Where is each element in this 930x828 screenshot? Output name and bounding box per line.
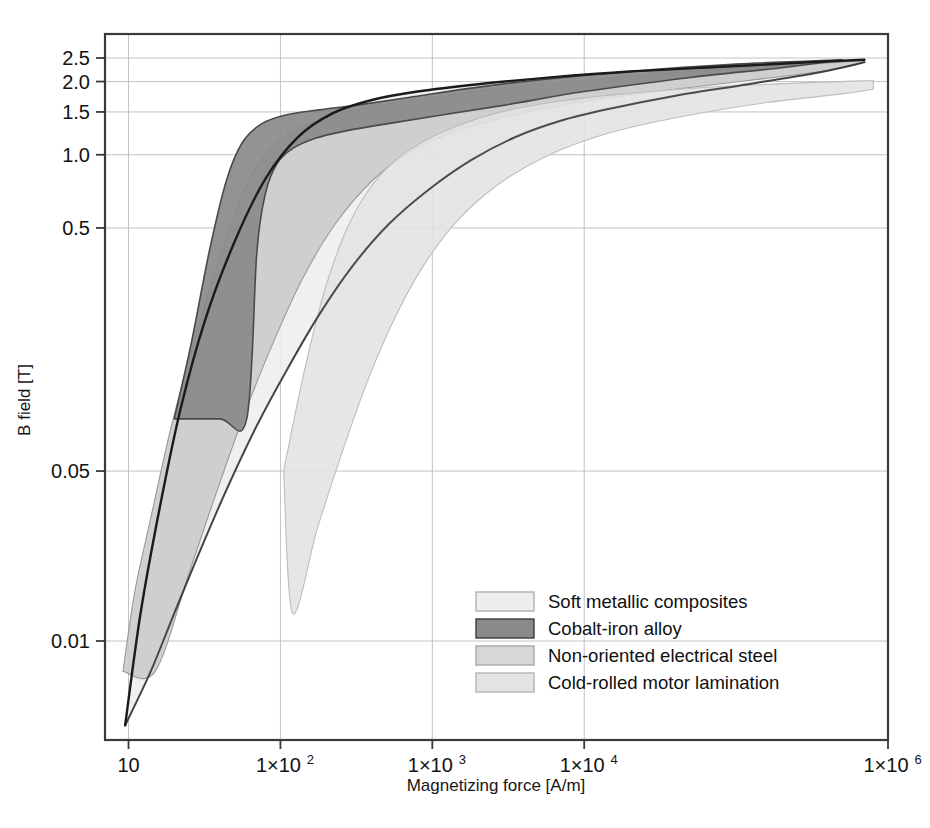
y-tick-label: 0.05 — [51, 460, 90, 482]
svg-text:10: 10 — [117, 754, 139, 776]
legend-label: Cold-rolled motor lamination — [548, 672, 779, 693]
legend-label: Cobalt-iron alloy — [548, 618, 682, 639]
legend-swatch — [476, 673, 534, 692]
svg-text:6: 6 — [914, 752, 921, 767]
svg-text:1×10: 1×10 — [863, 754, 908, 776]
y-tick-label: 0.01 — [51, 630, 90, 652]
svg-text:1×10: 1×10 — [408, 754, 453, 776]
chart-canvas: 2.52.01.51.00.50.050.01 101×1021×1031×10… — [0, 0, 930, 828]
svg-text:3: 3 — [459, 752, 466, 767]
y-axis-title: B field [T] — [15, 364, 34, 436]
magnetization-curve-figure: 2.52.01.51.00.50.050.01 101×1021×1031×10… — [0, 0, 930, 828]
svg-text:4: 4 — [611, 752, 618, 767]
legend-label: Non-oriented electrical steel — [548, 645, 777, 666]
legend-swatch — [476, 646, 534, 665]
legend-label: Soft metallic composites — [548, 591, 747, 612]
svg-text:2: 2 — [307, 752, 314, 767]
x-axis-title: Magnetizing force [A/m] — [407, 776, 586, 795]
y-tick-label: 2.0 — [62, 71, 90, 93]
y-tick-label: 1.0 — [62, 144, 90, 166]
x-tick-label: 10 — [117, 754, 139, 776]
legend-swatch — [476, 619, 534, 638]
y-tick-label: 0.5 — [62, 217, 90, 239]
svg-text:1×10: 1×10 — [560, 754, 605, 776]
y-tick-label: 1.5 — [62, 101, 90, 123]
svg-text:1×10: 1×10 — [256, 754, 301, 776]
legend-swatch — [476, 592, 534, 611]
y-tick-label: 2.5 — [62, 47, 90, 69]
